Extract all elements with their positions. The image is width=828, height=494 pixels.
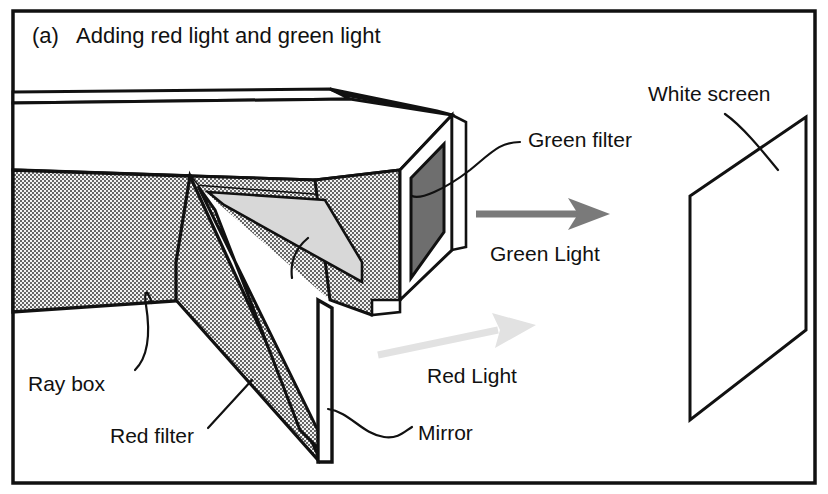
- mirror-leader: [328, 409, 412, 437]
- green-light-arrow: [476, 198, 610, 230]
- label-mirror: Mirror: [418, 421, 473, 444]
- red-light-arrow: [378, 313, 536, 355]
- red-filter-leader: [208, 380, 252, 428]
- mirror-post: [318, 300, 332, 462]
- page-title: Adding red light and green light: [76, 23, 381, 48]
- red-arrow-head: [492, 313, 536, 348]
- figure-panel: (a) Adding red light and green light: [0, 0, 828, 494]
- label-red-filter: Red filter: [110, 424, 194, 447]
- white-screen-panel: [690, 117, 806, 420]
- ray-box-bottom-rim: [372, 300, 400, 315]
- label-green-filter: Green filter: [528, 128, 632, 151]
- label-ray-box: Ray box: [28, 372, 106, 395]
- ray-box-near-side: [13, 170, 190, 312]
- label-white-screen: White screen: [648, 82, 771, 105]
- label-green-light: Green Light: [490, 242, 600, 265]
- ray-box-top-face: [13, 99, 452, 180]
- panel-label: (a): [32, 23, 59, 48]
- red-arrow-shaft: [378, 330, 498, 355]
- label-red-light: Red Light: [427, 364, 517, 387]
- diagram-canvas: (a) Adding red light and green light: [0, 0, 828, 494]
- white-screen: [690, 117, 806, 420]
